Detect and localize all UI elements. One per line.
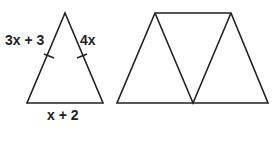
inner-triangle-lines [155, 13, 231, 103]
isosceles-triangle [27, 13, 103, 103]
right-side-label: 4x [80, 32, 96, 48]
diagram-canvas: 3x + 3 4x x + 2 [0, 0, 277, 150]
trapezoid-outline [117, 13, 268, 103]
triangle-outline [27, 13, 103, 103]
left-side-label: 3x + 3 [5, 32, 45, 48]
base-label: x + 2 [47, 107, 79, 123]
trapezoid-figure [117, 13, 268, 103]
